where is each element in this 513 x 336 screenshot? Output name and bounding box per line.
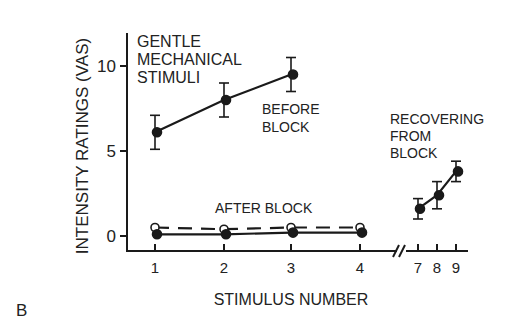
y-ticks: 0510 [97, 57, 127, 246]
x-tick-label: 3 [287, 259, 295, 276]
y-tick-label: 5 [107, 142, 116, 161]
recovering-label: BLOCK [390, 145, 438, 161]
filled-circle-marker [153, 230, 162, 239]
filled-circle-marker [454, 167, 463, 176]
x-tick-label: 8 [433, 259, 441, 276]
x-tick-label: 9 [452, 259, 460, 276]
recovering-label: RECOVERING [390, 111, 484, 127]
x-tick-label: 1 [151, 259, 159, 276]
y-tick-label: 0 [107, 227, 116, 246]
series-recovering-from-block [413, 161, 463, 219]
filled-circle-marker [358, 228, 367, 237]
x-ticks: 1234789 [151, 244, 460, 276]
filled-circle-marker [289, 228, 298, 237]
filled-circle-marker [222, 96, 231, 105]
series-after-block-filled- [153, 228, 367, 239]
x-tick-label: 2 [220, 259, 228, 276]
filled-circle-marker [416, 204, 425, 213]
before-block-label: BLOCK [262, 119, 310, 135]
y-tick-label: 10 [97, 57, 116, 76]
filled-circle-marker [289, 70, 298, 79]
after-block-label: AFTER BLOCK [215, 200, 313, 216]
axis-break-mark [399, 245, 405, 257]
x-axis-label: STIMULUS NUMBER [214, 291, 369, 308]
title-line: GENTLE [137, 33, 201, 50]
recovering-label: FROM [390, 128, 431, 144]
y-axis-label: INTENSITY RATINGS (VAS) [73, 38, 92, 254]
before-block-label: BEFORE [262, 101, 320, 117]
filled-circle-marker [153, 128, 162, 137]
x-tick-label: 7 [414, 259, 422, 276]
title-line: STIMULI [137, 69, 200, 86]
filled-circle-marker [222, 230, 231, 239]
chart: 0510 1234789 GENTLEMECHANICALSTIMULIBEFO… [0, 0, 513, 336]
title-line: MECHANICAL [137, 51, 242, 68]
x-tick-label: 4 [356, 259, 364, 276]
labels: GENTLEMECHANICALSTIMULIBEFOREBLOCKAFTER … [16, 33, 484, 320]
filled-circle-marker [435, 191, 444, 200]
panel-label: B [16, 301, 27, 320]
